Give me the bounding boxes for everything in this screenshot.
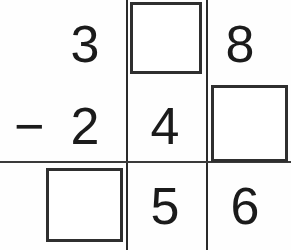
subtraction-worksheet: 3 8 − 2 4 5 6 bbox=[0, 0, 291, 250]
subtrahend-middle-digit: 4 bbox=[142, 100, 188, 152]
minuend-hundreds-digit: 3 bbox=[62, 18, 108, 70]
minus-operator: − bbox=[14, 100, 44, 152]
minuend-ones-digit: 8 bbox=[217, 18, 263, 70]
minuend-tens-blank-box[interactable] bbox=[130, 2, 202, 74]
difference-tens-digit: 5 bbox=[142, 180, 188, 232]
column-divider-line-right bbox=[206, 0, 208, 250]
difference-ones-digit: 6 bbox=[222, 180, 268, 232]
subtrahend-tens-digit: 2 bbox=[62, 100, 108, 152]
column-divider-line-left bbox=[126, 0, 128, 250]
difference-hundreds-blank-box[interactable] bbox=[46, 168, 123, 242]
subtrahend-ones-blank-box[interactable] bbox=[211, 85, 288, 162]
